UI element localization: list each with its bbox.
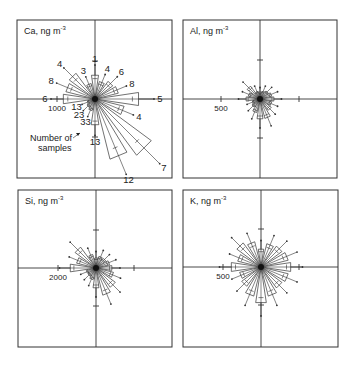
spoke-end [68,256,70,258]
panel-ca: 1000146854712133323136843Ca, ng m-3Numbe… [17,20,172,185]
spoke-end [102,250,104,252]
spoke-end [264,85,266,87]
spoke-end [120,277,122,279]
spoke-end [244,304,246,306]
sample-count: 13 [90,136,101,147]
spoke-end [302,266,304,268]
spoke-end [247,110,249,112]
spoke-end [259,87,261,89]
annotation-number-of: Number of [30,133,73,143]
scale-label: 500 [214,104,228,113]
spoke-end [242,91,244,93]
panel-al: 500Al, ng m-3 [183,20,337,178]
spoke-end [260,315,262,317]
spoke-end [246,232,248,234]
panel-title: K, ng m-3 [190,195,227,206]
sample-count: 4 [57,58,62,69]
spoke-end [80,273,82,275]
annotation-samples: samples [38,143,72,153]
spoke-end [270,125,272,127]
spoke-end [110,303,112,305]
panel-title: Ca, ng m-3 [24,25,67,36]
spoke-end [286,240,288,242]
sample-count: 6 [119,66,124,77]
spoke-end [126,85,128,87]
spoke-end [286,292,288,294]
spoke-end [251,118,253,120]
spoke-end [254,85,256,87]
sample-count: 3 [81,65,86,76]
center-dot [93,265,99,271]
spoke-end [271,86,273,88]
sample-count: 4 [136,111,141,122]
spoke-end [69,241,71,243]
sample-count: 5 [157,93,162,104]
panel-title: Si, ng m-3 [25,195,64,206]
spoke-end [63,67,65,69]
center-dot [257,96,263,102]
spoke-end [231,278,233,280]
spoke-end [59,267,61,269]
spoke-end [95,296,97,298]
sample-count: 6 [42,93,47,104]
spoke-end [296,251,298,253]
spoke-end [119,291,121,293]
panel-title: Al, ng m-3 [190,25,229,36]
spoke-end [281,98,283,100]
panel-si: 2000Si, ng m-3 [18,190,172,347]
spoke-end [231,237,233,239]
spoke-end [95,251,97,253]
spoke-end [277,91,279,93]
center-dot [258,264,264,270]
scale-label: 2000 [49,273,67,282]
pollution-rose-figure: 1000146854712133323136843Ca, ng m-3Numbe… [0,0,355,365]
spoke-end [83,279,85,281]
spoke-end [276,304,278,306]
spoke-end [260,240,262,242]
spoke-end [119,267,121,269]
scale-label: 500 [216,272,230,281]
spoke-end [274,113,276,115]
spoke-end [115,259,117,261]
spoke-end [109,254,111,256]
spoke-end [246,103,248,105]
spoke-end [229,253,231,255]
spoke-end [238,98,240,100]
sample-count: 1 [92,53,97,64]
spoke-end [273,235,275,237]
spoke-end [87,247,89,249]
spoke-end [132,114,134,116]
sample-count: 12 [123,174,134,185]
spoke-end [277,105,279,107]
spoke-end [94,64,96,66]
sample-count: 8 [129,78,134,89]
spoke-end [296,281,298,283]
spoke-end [153,98,155,100]
spoke-end [219,266,221,268]
sample-count: 8 [48,75,53,86]
scale-label: 1000 [48,104,66,113]
spoke-end [50,98,52,100]
panel-k: 500K, ng m-3 [183,190,338,347]
spoke-end [242,81,244,83]
sample-count: 4 [105,63,110,74]
center-dot [92,96,98,102]
spoke-end [236,290,238,292]
spoke-end [88,285,90,287]
spoke-end [56,82,58,84]
spoke-end [259,127,261,129]
sample-count: 7 [161,162,166,173]
